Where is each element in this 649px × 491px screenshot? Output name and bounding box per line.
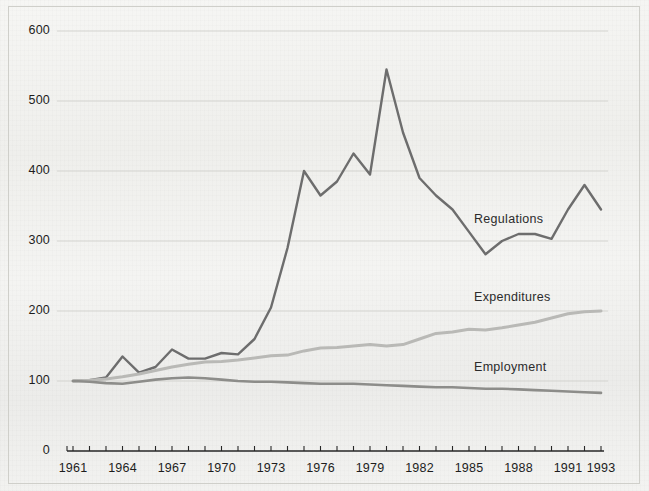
series-label-expenditures: Expenditures (474, 290, 551, 304)
series-lines-group (73, 70, 601, 393)
x-tick-label-1970: 1970 (200, 461, 244, 475)
y-tick-label-200: 200 (14, 303, 50, 317)
x-tick-label-1985: 1985 (447, 461, 491, 475)
line-chart-plot (0, 0, 649, 491)
x-tick-label-1964: 1964 (101, 461, 145, 475)
x-tick-label-1976: 1976 (299, 461, 343, 475)
x-tick-label-1961: 1961 (51, 461, 95, 475)
gridlines-group (57, 31, 608, 381)
y-tick-label-400: 400 (14, 163, 50, 177)
x-tick-label-1973: 1973 (249, 461, 293, 475)
y-tick-label-500: 500 (14, 93, 50, 107)
series-label-regulations: Regulations (474, 212, 543, 226)
series-line-employment (73, 378, 601, 393)
y-tick-label-600: 600 (14, 23, 50, 37)
x-tick-label-1993: 1993 (579, 461, 623, 475)
y-tick-label-100: 100 (14, 373, 50, 387)
y-tick-label-300: 300 (14, 233, 50, 247)
series-label-employment: Employment (474, 360, 546, 374)
chart-page: 0100200300400500600 19611964196719701973… (0, 0, 649, 491)
x-tick-label-1988: 1988 (497, 461, 541, 475)
x-tick-label-1979: 1979 (348, 461, 392, 475)
axis-group (67, 446, 604, 451)
x-tick-label-1982: 1982 (398, 461, 442, 475)
y-tick-label-0: 0 (14, 443, 50, 457)
x-tick-label-1967: 1967 (150, 461, 194, 475)
